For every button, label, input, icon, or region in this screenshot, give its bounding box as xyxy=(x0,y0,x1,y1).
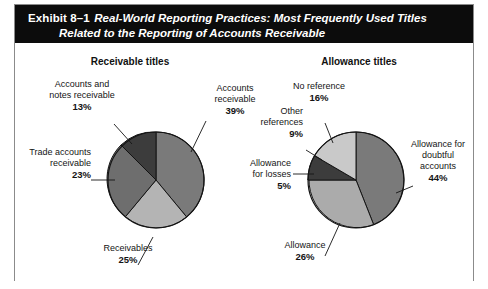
callout-line-2: receivable xyxy=(214,94,255,104)
callout-line-2: for losses xyxy=(252,169,291,179)
callout-line-1: Allowance xyxy=(250,158,291,168)
exhibit-body: Receivable titles Allowance titles xyxy=(15,43,473,282)
exhibit-header-bar: Exhibit 8–1 Real-World Reporting Practic… xyxy=(15,5,473,43)
callout-line-2: doubtful xyxy=(422,150,454,160)
callout-trade-accounts-receivable[interactable]: Trade accounts receivable 23% xyxy=(15,147,91,180)
leader-line-accounts-and-notes-receivable xyxy=(114,124,132,144)
callout-other-references[interactable]: Other references 9% xyxy=(223,106,303,139)
callout-accounts-and-notes-receivable[interactable]: Accounts and notes receivable 13% xyxy=(31,79,133,112)
callout-percent: 23% xyxy=(15,169,91,180)
callout-percent: 25% xyxy=(88,254,168,265)
callout-line-1: No reference xyxy=(293,81,345,91)
callout-line-1: Accounts and xyxy=(55,79,110,89)
callout-line-1: Trade accounts xyxy=(29,147,91,157)
callout-percent: 5% xyxy=(215,180,291,191)
callout-line-2: references xyxy=(260,117,303,127)
callout-percent: 44% xyxy=(403,172,473,183)
callout-percent: 26% xyxy=(265,251,345,262)
callout-no-reference[interactable]: No reference 16% xyxy=(273,81,365,103)
callout-line-1: Allowance for xyxy=(411,139,465,149)
callout-allowance[interactable]: Allowance 26% xyxy=(265,240,345,262)
pie-chart-allowance-titles xyxy=(293,123,413,256)
callout-percent: 16% xyxy=(273,92,365,103)
callout-percent: 13% xyxy=(31,101,133,112)
callout-line-3: accounts xyxy=(420,161,456,171)
callout-receivables[interactable]: Receivables 25% xyxy=(88,243,168,265)
callout-allowance-for-losses[interactable]: Allowance for losses 5% xyxy=(215,158,291,191)
callout-line-2: receivable xyxy=(50,158,91,168)
leader-line-accounts-receivable xyxy=(191,121,206,152)
callout-line-1: Other xyxy=(280,106,303,116)
callout-line-1: Receivables xyxy=(103,243,152,253)
callout-line-2: notes receivable xyxy=(49,90,115,100)
exhibit-panel: Exhibit 8–1 Real-World Reporting Practic… xyxy=(14,4,474,281)
callout-percent: 9% xyxy=(223,128,303,139)
callout-line-1: Allowance xyxy=(284,240,325,250)
exhibit-header-line-2: Related to the Reporting of Accounts Rec… xyxy=(59,23,325,41)
callout-allowance-for-doubtful-accounts[interactable]: Allowance for doubtful accounts 44% xyxy=(403,139,473,183)
callout-line-1: Accounts xyxy=(216,83,253,93)
exhibit-title-line-2: Related to the Reporting of Accounts Rec… xyxy=(59,27,325,39)
